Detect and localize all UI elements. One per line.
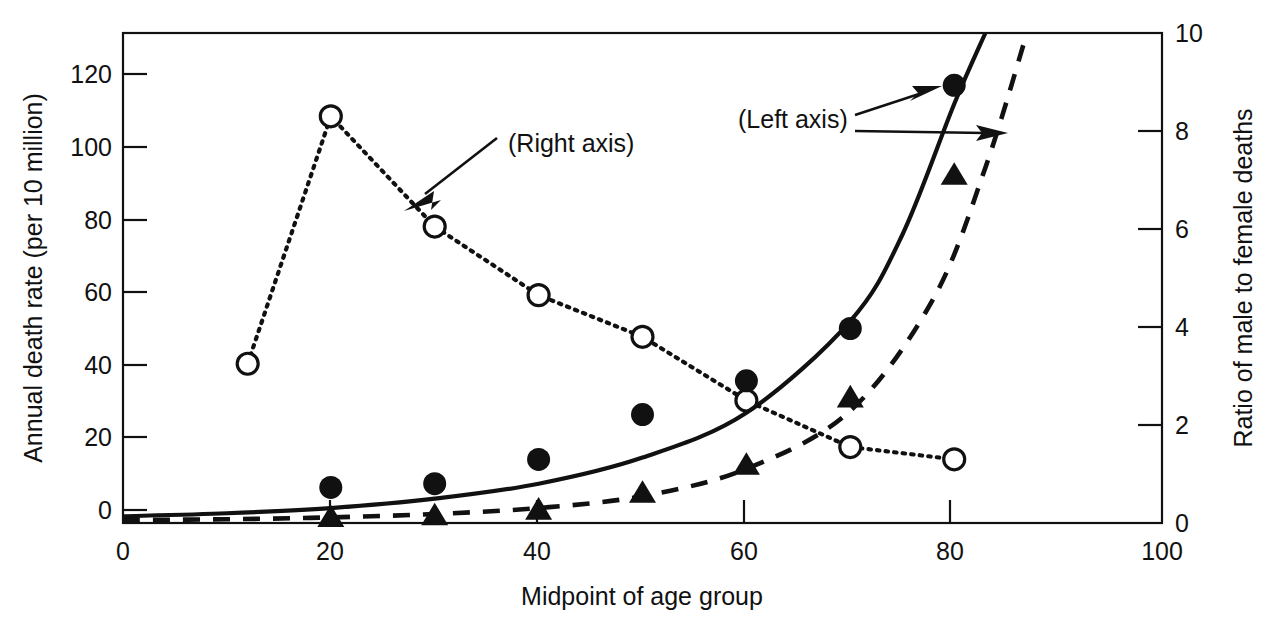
ratio-open-circle-30 bbox=[424, 216, 445, 237]
left-tick-label-0: 0 bbox=[98, 496, 112, 524]
left-tick-label-100: 100 bbox=[70, 133, 112, 161]
left-axis-annotation-arrow-line-solid bbox=[855, 93, 922, 115]
left-tick-label-20: 20 bbox=[84, 423, 112, 451]
x-tick-label-60: 60 bbox=[730, 537, 758, 565]
ratio-open-circle-12 bbox=[237, 353, 258, 374]
left-axis-tick-labels: 120 100 80 60 40 20 0 bbox=[70, 60, 112, 524]
chart-figure: 120 100 80 60 40 20 0 Annual death rate … bbox=[0, 0, 1278, 632]
male-filled-circle-30 bbox=[423, 472, 446, 495]
female-filled-triangle-50 bbox=[629, 480, 656, 503]
right-tick-label-8: 8 bbox=[1175, 117, 1189, 145]
male-filled-circle-40 bbox=[527, 448, 550, 471]
right-axis-ticks bbox=[1138, 131, 1162, 425]
male-filled-circle-20 bbox=[319, 476, 342, 499]
left-axis-title: Annual death rate (per 10 million) bbox=[19, 93, 47, 463]
ratio-open-circle-markers bbox=[237, 106, 965, 470]
male-filled-circle-80 bbox=[943, 74, 966, 97]
left-tick-label-60: 60 bbox=[84, 278, 112, 306]
female-filled-triangle-80 bbox=[941, 162, 968, 185]
x-axis-ticks bbox=[330, 500, 950, 523]
left-axis-ticks bbox=[123, 74, 147, 510]
ratio-open-circle-50 bbox=[632, 326, 653, 347]
ratio-dotted-line bbox=[248, 116, 955, 459]
male-filled-circle-50 bbox=[631, 403, 654, 426]
dotted-ratio-series bbox=[237, 106, 965, 470]
x-tick-label-40: 40 bbox=[523, 537, 551, 565]
male-filled-circle-70 bbox=[839, 317, 862, 340]
right-tick-label-0: 0 bbox=[1175, 509, 1189, 537]
female-fitted-dashed-line bbox=[123, 33, 1027, 520]
left-tick-label-80: 80 bbox=[84, 206, 112, 234]
x-tick-label-100: 100 bbox=[1141, 537, 1183, 565]
x-tick-label-0: 0 bbox=[116, 537, 130, 565]
left-axis-annotation-label: (Left axis) bbox=[738, 105, 848, 133]
female-filled-triangle-70 bbox=[837, 385, 864, 408]
right-axis-annotation: (Right axis) bbox=[404, 129, 634, 211]
left-tick-label-120: 120 bbox=[70, 60, 112, 88]
left-axis-annotation: (Left axis) bbox=[738, 86, 1008, 141]
right-axis-title: Ratio of male to female deaths bbox=[1229, 108, 1257, 447]
right-axis-annotation-arrow-line bbox=[425, 138, 497, 194]
right-tick-label-4: 4 bbox=[1175, 313, 1189, 341]
right-tick-label-6: 6 bbox=[1175, 215, 1189, 243]
dual-axis-line-chart: 120 100 80 60 40 20 0 Annual death rate … bbox=[0, 0, 1278, 632]
x-tick-label-80: 80 bbox=[936, 537, 964, 565]
male-filled-circle-60 bbox=[735, 369, 758, 392]
right-axis-tick-labels: 10 8 6 4 2 0 bbox=[1175, 19, 1203, 537]
left-axis-annotation-arrow-line-dashed bbox=[855, 131, 985, 133]
right-axis-annotation-label: (Right axis) bbox=[508, 129, 634, 157]
ratio-open-circle-40 bbox=[528, 285, 549, 306]
left-tick-label-40: 40 bbox=[84, 351, 112, 379]
male-filled-circle-markers bbox=[319, 74, 965, 499]
right-tick-label-2: 2 bbox=[1175, 411, 1189, 439]
dashed-female-curve bbox=[123, 33, 1027, 520]
ratio-open-circle-20 bbox=[320, 106, 341, 127]
x-axis-tick-labels: 0 20 40 60 80 100 bbox=[116, 537, 1183, 565]
x-axis-title: Midpoint of age group bbox=[521, 582, 763, 610]
right-tick-label-10: 10 bbox=[1175, 19, 1203, 47]
ratio-open-circle-70 bbox=[840, 437, 861, 458]
ratio-open-circle-80 bbox=[944, 449, 965, 470]
left-axis-annotation-arrow-head-solid bbox=[910, 86, 942, 101]
x-tick-label-20: 20 bbox=[316, 537, 344, 565]
